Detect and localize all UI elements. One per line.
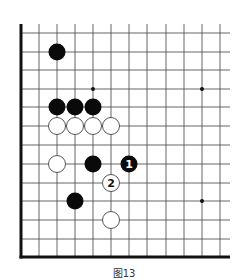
- white-stone: 2: [103, 175, 120, 192]
- black-stone: [67, 193, 84, 210]
- white-stone: [103, 212, 120, 229]
- black-stone: [85, 99, 102, 116]
- black-stone: [67, 99, 84, 116]
- black-stone: [49, 99, 66, 116]
- star-point: [91, 87, 95, 91]
- star-point: [200, 199, 204, 203]
- white-stone: [103, 118, 120, 135]
- black-stone: [49, 44, 66, 61]
- white-stone: [49, 118, 66, 135]
- white-stone: [67, 118, 84, 135]
- move-number-label: 2: [107, 177, 115, 190]
- move-number-label: 1: [125, 158, 133, 171]
- white-stone: [49, 156, 66, 173]
- white-stone: [85, 118, 102, 135]
- figure-caption: 图13: [0, 265, 245, 280]
- black-stone: [85, 156, 102, 173]
- go-board: 12: [0, 0, 245, 262]
- grid-lines: [20, 24, 231, 259]
- star-point: [200, 87, 204, 91]
- black-stone: 1: [121, 156, 138, 173]
